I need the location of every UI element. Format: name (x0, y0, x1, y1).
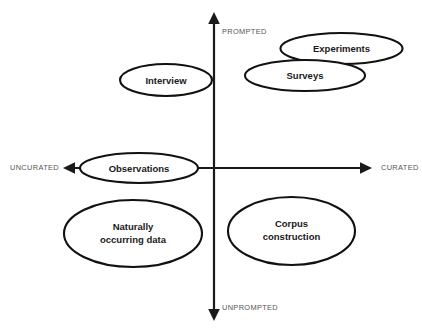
bubble-label-surveys: Surveys (287, 70, 324, 81)
bubble-corpus-construction[interactable]: Corpus construction (228, 197, 355, 265)
bubble-interview[interactable]: Interview (120, 64, 212, 96)
axis-label-prompted: PROMPTED (222, 27, 267, 36)
arrow-down-icon (208, 309, 220, 321)
bubble-label-corpus-line2: construction (263, 231, 321, 242)
arrow-left-icon (63, 162, 75, 174)
arrow-right-icon (360, 162, 372, 174)
bubble-label-naturally-line2: occurring data (100, 234, 167, 245)
diagram-canvas: agg ing PROMPTED UNPROMPTED UNCURATED CU… (0, 0, 422, 332)
bubble-observations[interactable]: Observations (80, 153, 198, 183)
bubble-label-corpus-line1: Corpus (275, 218, 308, 229)
bubble-label-observations: Observations (109, 163, 170, 174)
bubble-label-naturally-line1: Naturally (113, 221, 154, 232)
bubble-surveys[interactable]: Surveys (245, 60, 365, 91)
axis-label-uncurated: UNCURATED (10, 163, 59, 172)
quadrant-diagram: PROMPTED UNPROMPTED UNCURATED CURATED Ex… (0, 0, 422, 332)
vertical-axis (208, 12, 220, 321)
axis-label-unprompted: UNPROMPTED (222, 303, 278, 312)
arrow-up-icon (208, 12, 220, 24)
bubble-label-experiments: Experiments (313, 43, 370, 54)
axis-label-curated: CURATED (381, 163, 419, 172)
bubble-label-interview: Interview (145, 75, 187, 86)
bubble-naturally-occurring-data[interactable]: Naturally occurring data (64, 200, 202, 267)
